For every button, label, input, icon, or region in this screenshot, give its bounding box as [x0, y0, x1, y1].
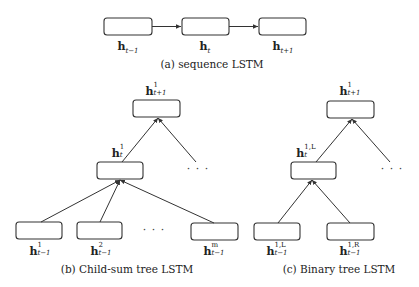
cs-edge-cm — [120, 180, 214, 223]
cs-child-label-2: h2t−1 — [90, 245, 111, 259]
cs-child-label-m: hmt−1 — [203, 245, 224, 259]
cs-edge-dots-root — [158, 118, 196, 162]
bt-right-child-label: h1,Rt−1 — [339, 245, 360, 259]
cs-root-node — [133, 100, 180, 117]
binary-panel — [254, 101, 390, 240]
bt-ellipsis: · · · — [381, 163, 403, 176]
bt-middle-label: h1,Lt — [296, 147, 315, 161]
cs-child-node-m — [191, 223, 238, 240]
seq-label-t-plus-1: ht+1 — [272, 41, 293, 55]
bt-right-child-node — [327, 223, 374, 240]
seq-node-t-minus-1 — [104, 18, 152, 35]
cs-edge-c2 — [100, 180, 120, 222]
bt-edge-mid-root — [316, 119, 352, 162]
cs-child-node-2 — [77, 222, 122, 239]
cs-edge-c1 — [41, 180, 120, 222]
cs-middle-label: h1t — [112, 147, 124, 161]
bt-edge-left — [278, 180, 312, 223]
caption-child-sum-tree-lstm: (b) Child-sum tree LSTM — [61, 263, 193, 275]
cs-ellipsis-top: · · · — [187, 163, 209, 176]
cs-middle-node — [97, 162, 143, 179]
caption-sequence-lstm: (a) sequence LSTM — [160, 58, 263, 70]
cs-edge-mid-root — [122, 118, 158, 162]
cs-ellipsis-bottom: · · · — [143, 224, 165, 237]
seq-label-t-minus-1: ht−1 — [117, 41, 138, 55]
cs-child-label-1: h1t−1 — [29, 245, 50, 259]
seq-label-t: ht — [200, 41, 211, 55]
bt-root-node — [327, 101, 374, 118]
bt-left-child-label: h1,Lt−1 — [266, 245, 287, 259]
seq-node-t-plus-1 — [259, 18, 306, 35]
sequence-lstm-panel — [104, 18, 306, 35]
bt-edge-dots-root — [352, 119, 390, 162]
bt-root-label: h1t+1 — [339, 85, 360, 99]
bt-middle-node — [291, 162, 336, 179]
cs-child-node-1 — [16, 222, 62, 239]
bt-left-child-node — [254, 223, 300, 240]
bt-edge-right — [312, 180, 350, 223]
seq-node-t — [182, 18, 229, 35]
cs-root-label: h1t+1 — [145, 85, 166, 99]
caption-binary-tree-lstm: (c) Binary tree LSTM — [283, 263, 396, 275]
